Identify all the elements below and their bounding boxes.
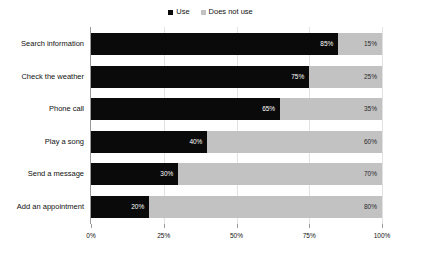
category-label: Send a message [0, 169, 84, 179]
x-tick-label: 0% [71, 231, 111, 240]
stacked-bar-chart: UseDoes not use 85%15%75%25%65%35%40%60%… [0, 0, 421, 260]
x-tick-label: 25% [144, 231, 184, 240]
x-tick-label: 100% [362, 231, 402, 240]
bar-value-label: 15% [364, 40, 382, 48]
x-tick-label: 75% [289, 231, 329, 240]
gridline-100 [382, 27, 383, 224]
bar-segment-use[interactable]: 20% [91, 196, 149, 218]
bar-row[interactable]: 65%35% [91, 98, 382, 120]
gridline-25 [164, 27, 165, 224]
legend-entry-2[interactable]: Does not use [201, 7, 253, 17]
bar-segment-use[interactable]: 75% [91, 66, 309, 88]
bar-segment-use[interactable]: 40% [91, 131, 207, 153]
x-tick-75 [309, 224, 310, 228]
bar-row[interactable]: 40%60% [91, 131, 382, 153]
gridline-75 [309, 27, 310, 224]
bar-value-label: 80% [364, 203, 382, 211]
bar-segment-use[interactable]: 65% [91, 98, 280, 120]
bar-segment-use[interactable]: 30% [91, 163, 178, 185]
category-label: Check the weather [0, 72, 84, 82]
x-tick-0 [91, 224, 92, 228]
gridline-50 [237, 27, 238, 224]
bar-segment-does-not-use[interactable]: 70% [178, 163, 382, 185]
bar-row[interactable]: 20%80% [91, 196, 382, 218]
bar-row[interactable]: 75%25% [91, 66, 382, 88]
bar-segment-does-not-use[interactable]: 60% [207, 131, 382, 153]
y-axis-line [90, 27, 91, 224]
category-label: Phone call [0, 104, 84, 114]
bar-value-label: 35% [364, 105, 382, 113]
bar-value-label: 70% [364, 170, 382, 178]
bar-value-label: 65% [262, 105, 280, 113]
legend-entry-1[interactable]: Use [168, 7, 189, 17]
category-label: Search information [0, 39, 84, 49]
bar-value-label: 30% [160, 170, 178, 178]
x-tick-label: 50% [217, 231, 257, 240]
x-tick-100 [382, 224, 383, 228]
square-marker-icon [201, 10, 206, 15]
legend-label: Does not use [209, 7, 253, 17]
bar-value-label: 25% [364, 73, 382, 81]
x-tick-25 [164, 224, 165, 228]
square-marker-icon [168, 10, 173, 15]
bar-value-label: 85% [320, 40, 338, 48]
bar-segment-does-not-use[interactable]: 35% [280, 98, 382, 120]
category-label: Add an appointment [0, 202, 84, 212]
x-tick-50 [237, 224, 238, 228]
bar-value-label: 40% [189, 138, 207, 146]
bar-segment-use[interactable]: 85% [91, 33, 338, 55]
plot-area: 85%15%75%25%65%35%40%60%30%70%20%80% [91, 27, 382, 224]
legend-label: Use [176, 7, 189, 17]
bar-value-label: 75% [291, 73, 309, 81]
bar-value-label: 20% [131, 203, 149, 211]
category-label: Play a song [0, 137, 84, 147]
bar-value-label: 60% [364, 138, 382, 146]
chart-legend: UseDoes not use [0, 7, 421, 17]
bar-row[interactable]: 85%15% [91, 33, 382, 55]
bar-segment-does-not-use[interactable]: 15% [338, 33, 382, 55]
bar-segment-does-not-use[interactable]: 80% [149, 196, 382, 218]
bar-segment-does-not-use[interactable]: 25% [309, 66, 382, 88]
bar-row[interactable]: 30%70% [91, 163, 382, 185]
